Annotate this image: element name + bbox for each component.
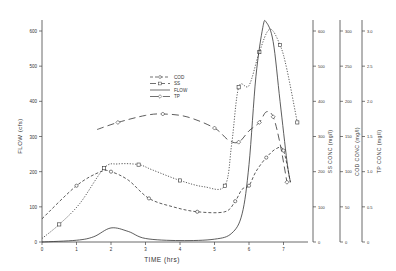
flow-axis: 0100200300400500600 [29,20,42,245]
tp-marker [285,180,289,184]
time-tick-label: 1 [75,247,78,252]
cod-tick-label: 0 [345,240,348,245]
ss-axis-label: SS CONC (mg/l) [327,130,333,174]
cod-tick-label: 200 [345,99,352,104]
tp-marker [116,120,120,124]
flow-line [42,20,290,242]
ss-tick-label: 300 [318,134,325,139]
flow-tick-label: 500 [29,64,37,69]
tp-tick-label: 1.0 [367,169,373,174]
ss-tick-label: 600 [318,29,325,34]
legend-label: SS [174,81,180,86]
flow-tick-label: 400 [29,99,37,104]
cod-marker [247,184,250,187]
tp-marker [237,140,241,144]
plot-series [42,20,299,242]
cod-tick-label: 300 [345,29,352,34]
time-tick-label: 7 [282,247,285,252]
cod-marker [234,200,237,203]
flow-tick-label: 0 [34,240,37,245]
tp-tick-label: 2.5 [367,64,373,69]
ss-tick-label: 500 [318,64,325,69]
time-tick-label: 2 [110,247,113,252]
y-axis-label: FLOW (cfs) [17,118,23,154]
flow-tick-label: 600 [29,29,37,34]
tp-tick-label: 0 [367,240,370,245]
cod-marker [147,197,150,200]
time-tick-label: 4 [179,247,182,252]
legend: CODSSFLOWTP [150,75,188,100]
cod-marker [75,184,78,187]
cod-axis-label: COD CONC (mg/l) [354,127,360,176]
time-tick-label: 3 [144,247,147,252]
tp-marker [271,115,275,119]
cod-line [42,147,290,219]
ss-marker [103,167,106,170]
flow-tick-label: 100 [29,205,37,210]
chart-canvas: 0100200300400500600 0100200300400500600S… [0,0,396,271]
cod-marker [282,149,285,152]
ss-marker [296,121,299,124]
tp-axis-label: TP CONC (mg/l) [376,130,382,174]
tp-tick-label: 0.5 [367,205,373,210]
concentration-axes: 0100200300400500600SS CONC (mg/l)0501001… [313,20,382,245]
time-tick-label: 5 [213,247,216,252]
ss-tick-label: 400 [318,99,325,104]
cod-tick-label: 50 [345,205,350,210]
ss-marker [178,179,181,182]
tp-marker [161,112,165,116]
ss-tick-label: 200 [318,169,325,174]
ss-tick-label: 100 [318,205,325,210]
legend-label: COD [174,75,185,80]
legend-label: TP [174,94,180,99]
ss-tick-label: 0 [318,240,321,245]
time-axis: 01234567 [41,242,308,252]
time-tick-label: 0 [41,247,44,252]
cod-marker [109,170,112,173]
cod-marker [196,210,199,213]
tp-tick-label: 1.5 [367,134,373,139]
cod-tick-label: 100 [345,169,352,174]
cod-marker [265,156,268,159]
cod-tick-label: 150 [345,134,352,139]
tp-marker [213,126,217,130]
x-axis-label: TIME (hrs) [144,256,180,264]
cod-tick-label: 250 [345,64,352,69]
tp-tick-label: 3.0 [367,29,373,34]
legend-label: FLOW [174,88,188,93]
ss-marker [137,163,140,166]
ss-marker [278,43,281,46]
flow-tick-label: 300 [29,135,37,140]
ss-marker [58,223,61,226]
tp-tick-label: 2.0 [367,99,373,104]
ss-marker [223,184,226,187]
flow-tick-label: 200 [29,170,37,175]
time-tick-label: 6 [248,247,251,252]
ss-line [42,29,297,238]
ss-marker [237,86,240,89]
